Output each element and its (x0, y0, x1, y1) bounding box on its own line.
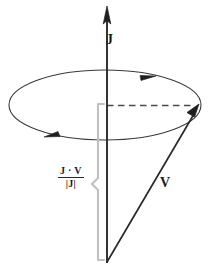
projection-denominator: |J| (58, 178, 84, 189)
projection-numerator: J · V (58, 166, 84, 178)
vector-projection-figure: J V J · V |J| (0, 0, 208, 277)
projection-fraction: J · V |J| (58, 166, 84, 189)
precession-ellipse (9, 70, 201, 140)
axis-vector-label: J (106, 33, 113, 47)
velocity-vector-label: V (160, 176, 170, 190)
projection-brace (92, 104, 104, 260)
vector-diagram (0, 0, 208, 277)
projection-magnitude-label: J · V |J| (58, 166, 84, 189)
ellipse-rotation-arrow-upper-icon (140, 76, 156, 81)
